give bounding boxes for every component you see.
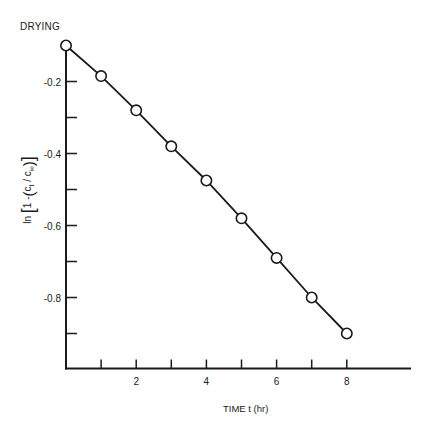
data-point-marker — [96, 71, 106, 81]
chart-plot: 2468-0.2-0.4-0.6-0.8 — [0, 0, 438, 424]
y-tick-label: -0.8 — [44, 293, 62, 304]
x-tick-label: 2 — [133, 376, 139, 387]
y-tick-label: -0.4 — [44, 149, 62, 160]
data-series — [61, 40, 352, 338]
axes — [65, 46, 411, 370]
x-tick-label: 8 — [344, 376, 350, 387]
y-tick-label: -0.2 — [44, 77, 62, 88]
data-point-marker — [61, 40, 71, 50]
data-point-marker — [342, 328, 352, 338]
data-point-marker — [201, 175, 211, 185]
data-point-marker — [307, 292, 317, 302]
data-line — [66, 46, 347, 334]
y-tick-label: -0.6 — [44, 221, 62, 232]
data-point-marker — [131, 105, 141, 115]
data-point-marker — [236, 213, 246, 223]
x-tick-label: 6 — [274, 376, 280, 387]
data-point-marker — [166, 141, 176, 151]
ticks: 2468-0.2-0.4-0.6-0.8 — [44, 77, 350, 387]
data-point-marker — [271, 253, 281, 263]
x-tick-label: 4 — [204, 376, 210, 387]
